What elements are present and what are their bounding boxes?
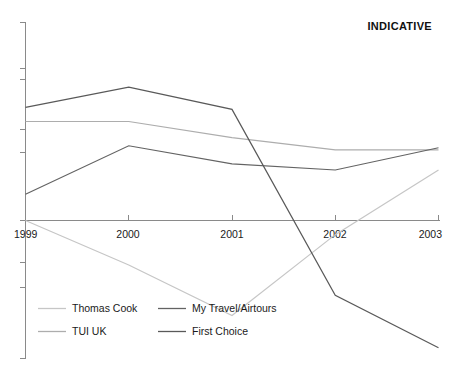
chart-container: 1999 2000 2001 2002 2003 Thomas Cook My … (0, 0, 460, 373)
series-line-my-travel-airtours (26, 146, 439, 194)
x-tick-label-1999: 1999 (14, 228, 38, 240)
chart-title-indicative: INDICATIVE (367, 20, 432, 32)
series-line-thomas-cook (26, 170, 439, 315)
legend-label-my-travel-airtours: My Travel/Airtours (192, 302, 277, 314)
x-tick-label-2000: 2000 (116, 228, 140, 240)
series-line-tui-uk (26, 122, 439, 150)
x-axis-ticks (129, 215, 439, 221)
x-tick-label-2003: 2003 (419, 228, 443, 240)
legend-label-tui-uk: TUI UK (72, 325, 106, 337)
chart-legend: Thomas Cook My Travel/Airtours TUI UK Fi… (38, 302, 277, 337)
line-chart: 1999 2000 2001 2002 2003 Thomas Cook My … (0, 0, 460, 373)
y-axis-ticks (20, 23, 26, 359)
legend-label-first-choice: First Choice (192, 325, 248, 337)
x-tick-label-2001: 2001 (220, 228, 244, 240)
legend-label-thomas-cook: Thomas Cook (72, 302, 138, 314)
